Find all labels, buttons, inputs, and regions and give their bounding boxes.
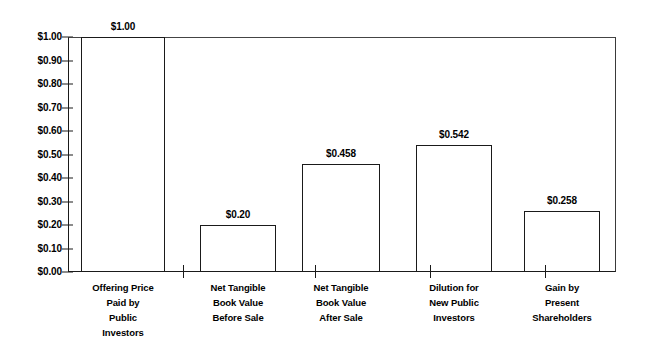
category-label-line: Before Sale bbox=[210, 310, 265, 325]
category-label-line: Present bbox=[532, 295, 592, 310]
y-axis-tick-label: $1.00 bbox=[37, 32, 62, 42]
y-axis-tick-label: $0.30 bbox=[37, 197, 62, 207]
category-label-line: Dilution for bbox=[429, 280, 479, 295]
y-axis-tick-label: $0.20 bbox=[37, 220, 62, 230]
category-label-line: Offering Price bbox=[92, 280, 153, 295]
plot-area: $1.00$0.20$0.458$0.542$0.258 bbox=[68, 37, 616, 272]
category-label-line: After Sale bbox=[313, 310, 368, 325]
x-axis-tick-mark bbox=[430, 265, 431, 278]
x-axis-category-label: Dilution forNew PublicInvestors bbox=[429, 280, 479, 325]
category-label-line: Investors bbox=[92, 325, 153, 340]
category-label-line: Book Value bbox=[210, 295, 265, 310]
category-label-line: Net Tangible bbox=[313, 280, 368, 295]
y-axis-tick-label: $0.00 bbox=[37, 267, 62, 277]
x-axis-category-label: Offering PricePaid byPublicInvestors bbox=[92, 280, 153, 340]
bar-chart: $1.00$0.90$0.80$0.70$0.60$0.50$0.40$0.30… bbox=[0, 0, 645, 347]
bar bbox=[302, 164, 380, 272]
y-axis-tick-label: $0.80 bbox=[37, 79, 62, 89]
category-label-line: Investors bbox=[429, 310, 479, 325]
category-label-line: New Public bbox=[429, 295, 479, 310]
category-label-line: Shareholders bbox=[532, 310, 592, 325]
bar-value-label: $0.458 bbox=[326, 148, 356, 159]
y-axis-tick-label: $0.90 bbox=[37, 56, 62, 66]
x-axis-tick-mark bbox=[183, 265, 184, 278]
bar bbox=[524, 211, 600, 272]
bar-value-label: $0.258 bbox=[547, 195, 577, 206]
x-axis-tick-mark bbox=[315, 265, 316, 278]
bar bbox=[81, 37, 165, 272]
y-axis-labels: $1.00$0.90$0.80$0.70$0.60$0.50$0.40$0.30… bbox=[0, 0, 64, 347]
x-axis-category-label: Net TangibleBook ValueAfter Sale bbox=[313, 280, 368, 325]
y-axis-tick-label: $0.50 bbox=[37, 150, 62, 160]
y-axis-tick-label: $0.10 bbox=[37, 244, 62, 254]
category-label-line: Paid by bbox=[92, 295, 153, 310]
bar-value-label: $0.20 bbox=[226, 209, 251, 220]
bar bbox=[200, 225, 276, 272]
bar bbox=[416, 145, 492, 272]
category-label-line: Book Value bbox=[313, 295, 368, 310]
category-label-line: Net Tangible bbox=[210, 280, 265, 295]
x-axis-tick-mark bbox=[545, 265, 546, 278]
category-label-line: Public bbox=[92, 310, 153, 325]
x-axis-category-label: Gain byPresentShareholders bbox=[532, 280, 592, 325]
y-axis-tick-label: $0.40 bbox=[37, 173, 62, 183]
y-axis-tick-label: $0.60 bbox=[37, 126, 62, 136]
y-axis-tick-label: $0.70 bbox=[37, 103, 62, 113]
bar-value-label: $0.542 bbox=[439, 129, 469, 140]
category-label-line: Gain by bbox=[532, 280, 592, 295]
bar-value-label: $1.00 bbox=[111, 21, 136, 32]
x-axis-category-label: Net TangibleBook ValueBefore Sale bbox=[210, 280, 265, 325]
